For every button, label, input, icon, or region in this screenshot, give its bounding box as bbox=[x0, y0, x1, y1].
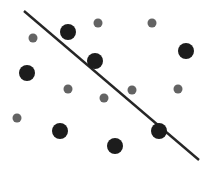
data-point bbox=[60, 24, 76, 40]
data-point bbox=[128, 86, 137, 95]
data-point bbox=[13, 114, 22, 123]
data-point bbox=[151, 123, 167, 139]
scatter-plot-figure bbox=[0, 0, 216, 175]
data-point bbox=[174, 85, 183, 94]
data-point bbox=[64, 85, 73, 94]
data-point bbox=[52, 123, 68, 139]
data-point bbox=[100, 94, 109, 103]
data-point bbox=[19, 65, 35, 81]
scatter-plot-canvas bbox=[0, 0, 216, 175]
data-point bbox=[94, 19, 103, 28]
data-point bbox=[148, 19, 157, 28]
data-point bbox=[178, 43, 194, 59]
data-point bbox=[107, 138, 123, 154]
data-point bbox=[87, 53, 103, 69]
data-point bbox=[29, 34, 38, 43]
